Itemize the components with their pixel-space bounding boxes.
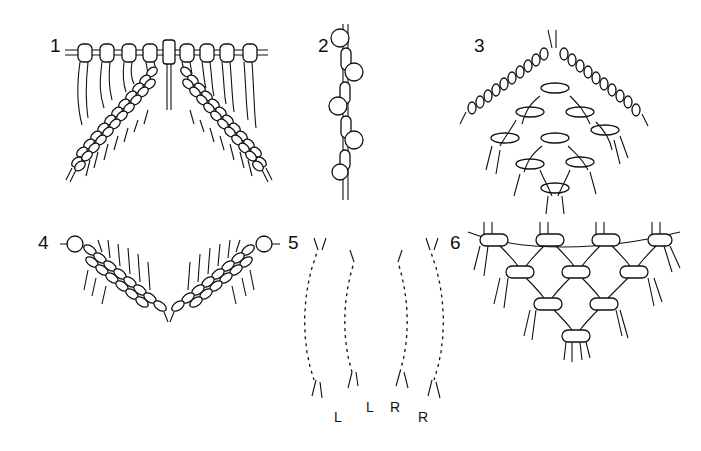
panel-6-drawing (468, 222, 680, 362)
panel-label-2: 2 (318, 36, 329, 55)
panel-label-5: 5 (288, 233, 299, 252)
sublabel-left-2: L (366, 400, 374, 414)
sublabel-right-2: R (418, 410, 428, 424)
panel-label-4: 4 (38, 233, 49, 252)
knot-illustrations (0, 0, 701, 451)
panel-2-drawing (329, 24, 363, 200)
sublabel-right-1: R (390, 400, 400, 414)
panel-4-drawing (60, 236, 280, 322)
sublabel-left-1: L (334, 410, 342, 424)
panel-label-1: 1 (50, 36, 61, 55)
panel-5-drawing (305, 238, 444, 398)
panel-3-drawing (460, 30, 648, 214)
panel-label-3: 3 (474, 36, 485, 55)
panel-label-6: 6 (450, 233, 461, 252)
panel-1-drawing (65, 40, 272, 182)
